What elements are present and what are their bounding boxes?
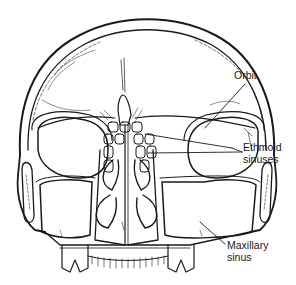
label-ethmoid-sinuses: Ethmoid sinuses — [243, 141, 282, 165]
leader-lines — [145, 84, 245, 244]
label-ethmoid-line2: sinuses — [243, 153, 282, 165]
label-maxillary-line1: Maxillary — [227, 239, 268, 251]
label-orbit: Orbit — [234, 69, 257, 81]
label-ethmoid-line1: Ethmoid — [243, 141, 282, 153]
label-orbit-line1: Orbit — [234, 69, 257, 81]
maxillary-left — [40, 180, 92, 238]
maxillary-right — [162, 180, 256, 238]
label-maxillary-sinus: Maxillary sinus — [227, 239, 268, 263]
skull-sinus-diagram: Orbit Ethmoid sinuses Maxillary sinus — [0, 0, 296, 285]
label-maxillary-line2: sinus — [227, 251, 268, 263]
ethmoid-cells — [104, 122, 156, 172]
palate-teeth — [45, 222, 250, 272]
leader-ethmoid-lower — [148, 152, 242, 153]
leader-ethmoid-stub — [232, 148, 242, 152]
orbit-left — [38, 117, 108, 178]
